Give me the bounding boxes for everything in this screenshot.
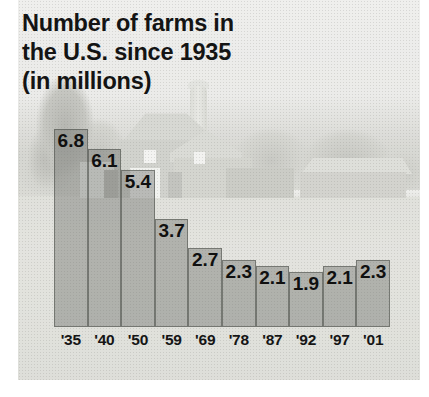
- page-margin-right: [420, 0, 429, 397]
- chart-title: Number of farms in the U.S. since 1935 (…: [22, 9, 302, 96]
- bar-value-label: 1.9: [289, 274, 323, 294]
- bar-column: 2.3'78: [222, 120, 256, 327]
- bar: [88, 149, 122, 327]
- bar-value-label: 3.7: [155, 221, 189, 241]
- x-axis-tick-label: '01: [356, 331, 390, 349]
- bar-column: 2.1'97: [323, 120, 357, 327]
- bar: [54, 129, 88, 327]
- x-axis-tick-label: '92: [289, 331, 323, 349]
- bar-column: 3.7'59: [155, 120, 189, 327]
- bar-value-label: 6.1: [88, 151, 122, 171]
- bar: [121, 170, 155, 327]
- bar-value-label: 2.3: [222, 262, 256, 282]
- bar-value-label: 2.3: [356, 262, 390, 282]
- bar-value-label: 2.1: [323, 268, 357, 288]
- page-margin-left: [0, 0, 18, 397]
- x-axis-tick-label: '78: [222, 331, 256, 349]
- bar-value-label: 5.4: [121, 172, 155, 192]
- x-axis-tick-label: '69: [188, 331, 222, 349]
- bar-value-label: 2.7: [188, 250, 222, 270]
- chart-title-line-2: the U.S. since 1935: [22, 38, 302, 67]
- x-axis-tick-label: '50: [121, 331, 155, 349]
- x-axis-tick-label: '35: [54, 331, 88, 349]
- x-axis-tick-label: '40: [88, 331, 122, 349]
- bar-column: 1.9'92: [289, 120, 323, 327]
- x-axis-tick-label: '59: [155, 331, 189, 349]
- bar-value-label: 2.1: [256, 268, 290, 288]
- chart-title-line-3: (in millions): [22, 67, 302, 96]
- bar-column: 2.3'01: [356, 120, 390, 327]
- bar-column: 2.1'87: [256, 120, 290, 327]
- bar-value-label: 6.8: [54, 131, 88, 151]
- chart-title-line-1: Number of farms in: [22, 9, 302, 38]
- chart-figure: Number of farms in the U.S. since 1935 (…: [0, 0, 429, 397]
- bar-column: 6.8'35: [54, 120, 88, 327]
- x-axis-tick-label: '97: [323, 331, 357, 349]
- bar-column: 5.4'50: [121, 120, 155, 327]
- bar-column: 2.7'69: [188, 120, 222, 327]
- bar-column: 6.1'40: [88, 120, 122, 327]
- x-axis-tick-label: '87: [256, 331, 290, 349]
- bar-chart-plot: 6.8'356.1'405.4'503.7'592.7'692.3'782.1'…: [54, 120, 390, 327]
- page-margin-bottom: [0, 380, 429, 397]
